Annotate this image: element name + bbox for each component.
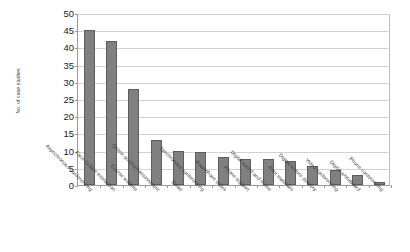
y-axis-tick-mark (75, 134, 78, 135)
y-axis-tick-mark (75, 83, 78, 84)
gridline (78, 48, 390, 49)
gridline (78, 134, 390, 135)
x-axis-category-labels: Asynchronous conferencingFace-to-face in… (77, 188, 390, 252)
gridline (78, 31, 390, 32)
gridline (78, 83, 390, 84)
gridline (78, 100, 390, 101)
y-axis-tick-mark (75, 66, 78, 67)
y-axis-title: No. of case studies (15, 41, 21, 141)
y-axis-tick-mark (75, 31, 78, 32)
y-axis-tick-mark (75, 186, 78, 187)
y-axis-tick-label: 15 (50, 130, 74, 140)
y-axis-tick-label: 50 (50, 9, 74, 19)
y-axis-tick-label: 45 (50, 26, 74, 36)
gridline (78, 117, 390, 118)
gridline (78, 66, 390, 67)
gridline (78, 14, 390, 15)
y-axis-tick-label: 0 (50, 181, 74, 191)
x-axis-tick-mark (391, 185, 392, 188)
bar-chart: No. of case studies 05101520253035404550… (0, 0, 410, 252)
y-axis-tick-label: 40 (50, 44, 74, 54)
y-axis-tick-label: 20 (50, 112, 74, 122)
y-axis-tick-mark (75, 48, 78, 49)
y-axis-tick-label: 25 (50, 95, 74, 105)
y-axis-tick-mark (75, 100, 78, 101)
y-axis-tick-mark (75, 14, 78, 15)
y-axis-tick-label: 30 (50, 78, 74, 88)
y-axis-tick-label: 35 (50, 61, 74, 71)
y-axis-tick-mark (75, 117, 78, 118)
